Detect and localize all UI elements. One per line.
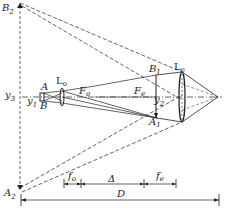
dim-fo-arrow-r: [77, 183, 81, 186]
microscope-ray-diagram: B2 A2 y3 A B y1 Lo Fo Fe B1 A1 y2 Le fo …: [0, 0, 226, 217]
ray-fo-to-b1: [95, 75, 156, 86]
dim-fe-arrow-l: [144, 183, 148, 186]
dim-D-arrow-r: [214, 198, 219, 201]
label-a2: A2: [3, 187, 16, 201]
label-fe: Fe: [133, 85, 145, 98]
dim-label-fe: fe: [155, 170, 164, 183]
ray-to-a1-2: [62, 97, 157, 118]
dim-D-arrow-l: [21, 198, 26, 201]
ray-le-inner-2: [182, 97, 218, 110]
virtual-ray-a2-lower: [22, 122, 182, 192]
label-lo: Lo: [56, 75, 67, 88]
label-a: A: [40, 81, 48, 92]
dim-delta-arrow-l: [81, 183, 85, 186]
ray-le-inner-1: [182, 84, 218, 97]
dim-label-fo: fo: [67, 170, 76, 183]
ray-a1-to-le: [157, 118, 182, 122]
dim-label-delta: Δ: [107, 173, 115, 184]
ray-le-to-eye-lower: [182, 97, 218, 122]
virtual-ray-b2-upper: [20, 3, 182, 72]
label-y2: y2: [153, 94, 165, 108]
label-b1: B1: [148, 63, 161, 76]
label-b2: B2: [1, 2, 14, 16]
ray-le-to-eye-upper: [182, 72, 218, 97]
dim-label-d: D: [116, 188, 125, 199]
dim-fo-arrow-l: [64, 183, 68, 186]
a2-arrowhead: [17, 185, 23, 190]
label-y3: y3: [4, 89, 16, 103]
ray-to-a1-3: [62, 103, 157, 118]
dim-delta-arrow-r: [140, 183, 144, 186]
dim-fe-arrow-r: [172, 183, 176, 186]
label-b: B: [39, 100, 47, 111]
